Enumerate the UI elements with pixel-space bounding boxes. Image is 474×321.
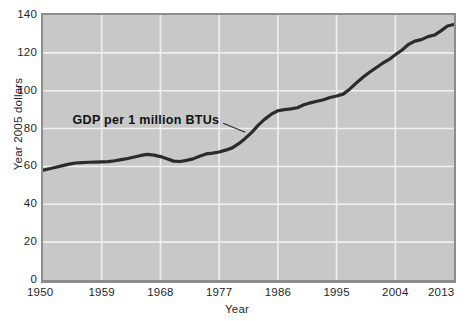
- x-axis-tick-labels: 19501959196819771986199520042013: [0, 0, 474, 321]
- y-axis-title: Year 2005 dollars: [12, 64, 24, 184]
- x-tick-label: 1959: [88, 287, 114, 299]
- x-tick-label: 2013: [428, 287, 454, 299]
- x-tick-label: 2004: [382, 287, 408, 299]
- x-tick-label: 1995: [323, 287, 349, 299]
- x-tick-label: 1986: [265, 287, 291, 299]
- x-axis-title: Year: [0, 303, 474, 315]
- line-chart: 020406080100120140 195019591968197719861…: [0, 0, 474, 321]
- x-tick-label: 1977: [206, 287, 232, 299]
- x-tick-label: 1968: [147, 287, 173, 299]
- series-annotation-label: GDP per 1 million BTUs: [73, 113, 220, 127]
- x-tick-label: 1950: [27, 287, 53, 299]
